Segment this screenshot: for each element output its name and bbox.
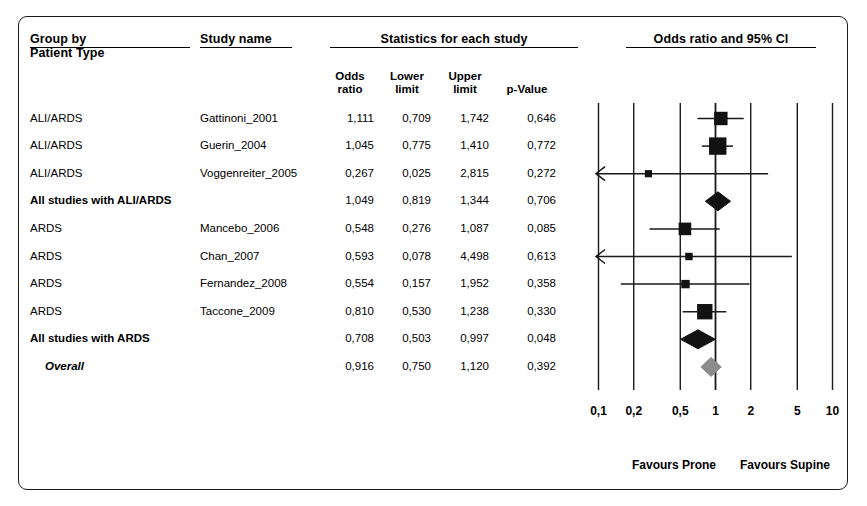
axis-tick-2: 0,5: [660, 404, 700, 418]
cell-or: 0,810: [314, 305, 374, 317]
cell-lower: 0,078: [371, 250, 431, 262]
cell-or: 0,708: [314, 332, 374, 344]
cell-study-name: Mancebo_2006: [200, 222, 279, 234]
colhdr-odds-ratio: Odds ratio: [326, 70, 374, 95]
colhdr-lower-limit-l1: Lower: [383, 70, 431, 83]
cell-group: ARDS: [30, 277, 62, 289]
colhdr-upper-limit-l2: limit: [441, 83, 489, 96]
cell-group: Overall: [45, 360, 84, 372]
cell-lower: 0,503: [371, 332, 431, 344]
header-patient-type: Patient Type: [30, 46, 105, 60]
cell-lower: 0,819: [371, 194, 431, 206]
cell-p: 0,358: [496, 277, 556, 289]
cell-or: 1,049: [314, 194, 374, 206]
cell-p: 0,330: [496, 305, 556, 317]
header-statistics: Statistics for each study: [330, 32, 578, 48]
cell-lower: 0,775: [371, 139, 431, 151]
cell-group: ARDS: [30, 222, 62, 234]
cell-study-name: Taccone_2009: [200, 305, 275, 317]
cell-upper: 1,742: [429, 112, 489, 124]
header-study-name: Study name: [200, 32, 292, 48]
axis-tick-1: 0,2: [614, 404, 654, 418]
cell-or: 1,045: [314, 139, 374, 151]
cell-group: ALI/ARDS: [30, 139, 82, 151]
cell-group: ARDS: [30, 305, 62, 317]
cell-p: 0,706: [496, 194, 556, 206]
cell-upper: 1,238: [429, 305, 489, 317]
colhdr-p-value: p-Value: [498, 83, 556, 96]
axis-tick-4: 2: [731, 404, 771, 418]
cell-lower: 0,750: [371, 360, 431, 372]
cell-lower: 0,709: [371, 112, 431, 124]
colhdr-lower-limit-l2: limit: [383, 83, 431, 96]
cell-upper: 1,120: [429, 360, 489, 372]
cell-upper: 1,410: [429, 139, 489, 151]
cell-upper: 2,815: [429, 167, 489, 179]
favours-supine-label: Favours Supine: [740, 458, 830, 472]
header-odds-ratio-ci: Odds ratio and 95% CI: [626, 32, 816, 48]
cell-lower: 0,530: [371, 305, 431, 317]
cell-upper: 0,997: [429, 332, 489, 344]
cell-group: ALI/ARDS: [30, 167, 82, 179]
cell-upper: 1,344: [429, 194, 489, 206]
cell-lower: 0,157: [371, 277, 431, 289]
cell-p: 0,048: [496, 332, 556, 344]
cell-p: 0,772: [496, 139, 556, 151]
axis-tick-5: 5: [777, 404, 817, 418]
colhdr-lower-limit: Lower limit: [383, 70, 431, 95]
cell-p: 0,272: [496, 167, 556, 179]
cell-or: 0,548: [314, 222, 374, 234]
cell-lower: 0,025: [371, 167, 431, 179]
cell-p: 0,613: [496, 250, 556, 262]
cell-or: 0,267: [314, 167, 374, 179]
cell-lower: 0,276: [371, 222, 431, 234]
cell-study-name: Gattinoni_2001: [200, 112, 278, 124]
cell-p: 0,392: [496, 360, 556, 372]
cell-upper: 1,952: [429, 277, 489, 289]
cell-group: All studies with ALI/ARDS: [30, 194, 171, 206]
cell-or: 0,593: [314, 250, 374, 262]
axis-tick-6: 10: [813, 404, 853, 418]
colhdr-upper-limit: Upper limit: [441, 70, 489, 95]
colhdr-odds-ratio-l2: ratio: [326, 83, 374, 96]
cell-or: 1,111: [314, 112, 374, 124]
cell-group: All studies with ARDS: [30, 332, 150, 344]
cell-p: 0,085: [496, 222, 556, 234]
cell-group: ARDS: [30, 250, 62, 262]
cell-group: ALI/ARDS: [30, 112, 82, 124]
cell-study-name: Voggenreiter_2005: [200, 167, 297, 179]
colhdr-upper-limit-l1: Upper: [441, 70, 489, 83]
cell-or: 0,554: [314, 277, 374, 289]
cell-study-name: Fernandez_2008: [200, 277, 287, 289]
favours-prone-label: Favours Prone: [632, 458, 716, 472]
cell-upper: 4,498: [429, 250, 489, 262]
cell-study-name: Chan_2007: [200, 250, 259, 262]
axis-tick-3: 1: [696, 404, 736, 418]
cell-study-name: Guerin_2004: [200, 139, 267, 151]
cell-or: 0,916: [314, 360, 374, 372]
cell-p: 0,646: [496, 112, 556, 124]
cell-upper: 1,087: [429, 222, 489, 234]
axis-tick-0: 0,1: [579, 404, 619, 418]
colhdr-odds-ratio-l1: Odds: [326, 70, 374, 83]
